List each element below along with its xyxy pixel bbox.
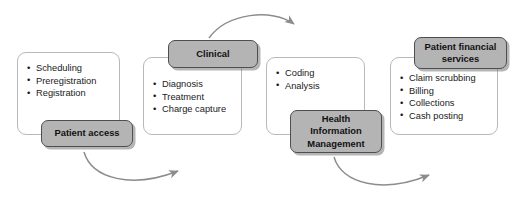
stage-label-line: Patient financial (425, 41, 497, 53)
stage-label-line: Health (322, 113, 351, 125)
arrow-clinical-to-him (209, 15, 294, 38)
list-item: Billing (400, 85, 476, 98)
list-item: Coding (276, 67, 320, 80)
list-item: Charge capture (153, 103, 226, 116)
list-item: Preregistration (27, 75, 96, 88)
stage-item-list-clinical: Diagnosis Treatment Charge capture (153, 78, 226, 116)
stage-label-line: Management (307, 138, 364, 150)
list-item: Treatment (153, 91, 226, 104)
list-item: Diagnosis (153, 78, 226, 91)
stage-label-health-information-management[interactable]: Health Information Management (290, 110, 382, 153)
stage-label-line: Patient access (54, 127, 119, 139)
list-item: Analysis (276, 80, 320, 93)
stage-label-patient-financial-services[interactable]: Patient financial services (414, 37, 507, 69)
stage-item-list-patient-access: Scheduling Preregistration Registration (27, 62, 96, 100)
list-item: Scheduling (27, 62, 96, 75)
stage-label-line: services (442, 53, 480, 65)
stage-item-list-patient-financial-services: Claim scrubbing Billing Collections Cash… (400, 72, 476, 122)
list-item: Claim scrubbing (400, 72, 476, 85)
stage-item-list-health-information-management: Coding Analysis (276, 67, 320, 92)
list-item: Collections (400, 97, 476, 110)
arrow-patient-access-to-clinical (84, 152, 178, 180)
workflow-diagram: Scheduling Preregistration Registration … (0, 0, 523, 200)
list-item: Cash posting (400, 110, 476, 123)
stage-label-patient-access[interactable]: Patient access (41, 120, 133, 147)
stage-label-clinical[interactable]: Clinical (168, 40, 258, 68)
stage-label-line: Information (310, 125, 362, 137)
arrow-him-to-pfs (334, 157, 429, 185)
stage-panel-clinical: Diagnosis Treatment Charge capture (143, 57, 242, 135)
list-item: Registration (27, 87, 96, 100)
stage-label-line: Clinical (196, 48, 229, 60)
